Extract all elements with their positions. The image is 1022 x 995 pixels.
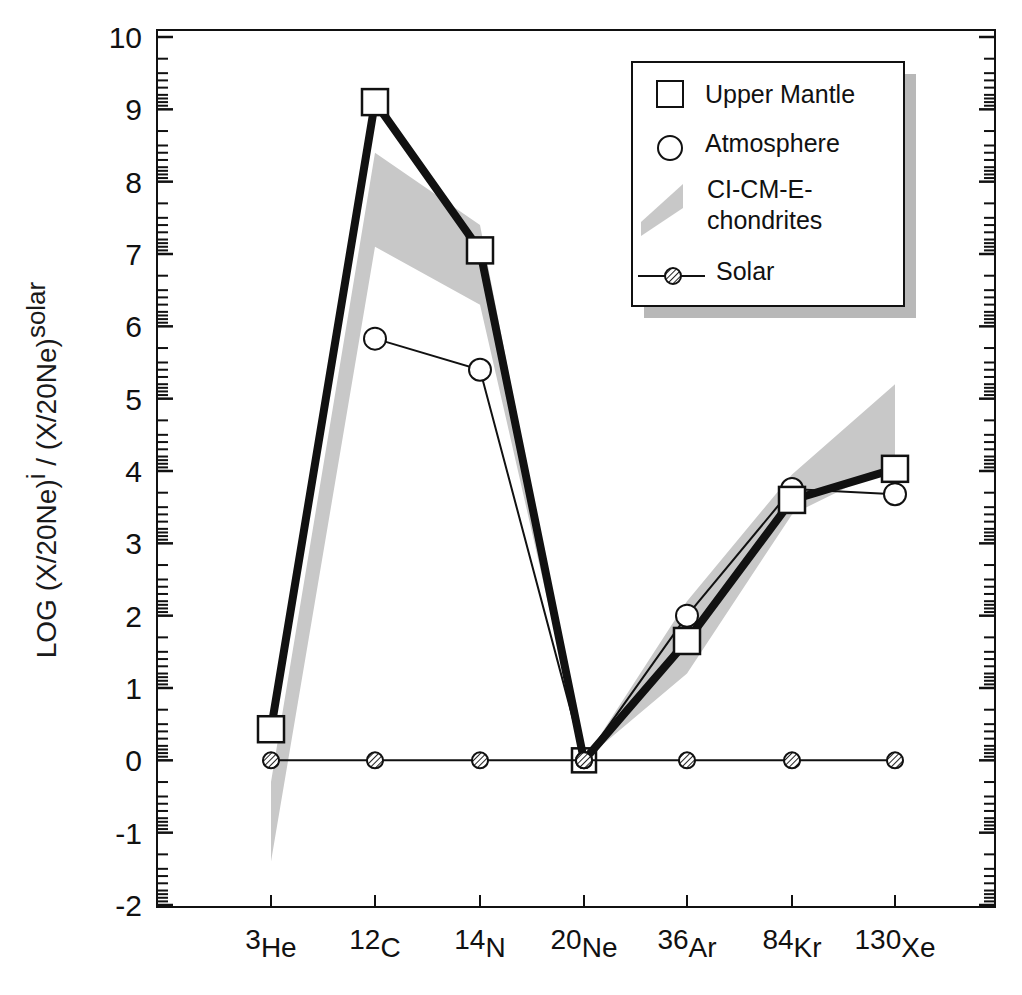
solar-marker [367, 752, 383, 768]
y-tick-label: 9 [125, 93, 142, 126]
x-tick-label: 84Kr [762, 924, 821, 963]
y-tick-labels: -2-1012345678910 [109, 21, 142, 922]
atmosphere-marker [884, 483, 906, 505]
y-tick-label: 4 [125, 455, 142, 488]
y-tick-label: 7 [125, 238, 142, 271]
y-axis-label-main: LOG (X/20Ne) [31, 479, 62, 658]
upper-mantle-marker [258, 716, 284, 742]
upper-mantle-marker [362, 89, 388, 115]
x-tick-label: 130Xe [855, 924, 936, 963]
legend-circle-icon [658, 136, 682, 160]
x-tick-label: 14N [454, 924, 505, 963]
legend-label-solar: Solar [716, 257, 774, 285]
y-tick-label: 3 [125, 527, 142, 560]
y-tick-label: 1 [125, 672, 142, 705]
x-tick-labels: 3He12C14N20Ne36Ar84Kr130Xe [245, 924, 935, 963]
legend-square-icon [657, 81, 683, 107]
y-tick-label: 10 [109, 21, 142, 54]
y-axis-label-mid: / (X/20Ne) [31, 338, 62, 473]
y-tick-label: 6 [125, 310, 142, 343]
solar-marker [263, 752, 279, 768]
legend: Upper MantleAtmosphereCI-CM-E-chondrites… [632, 62, 916, 318]
upper-mantle-marker [467, 237, 493, 263]
y-axis-label: LOG (X/20Ne)i / (X/20Ne)solar [21, 282, 62, 658]
upper-mantle-marker [674, 628, 700, 654]
solar-marker [887, 752, 903, 768]
x-tick-label: 3He [245, 924, 296, 963]
solar-marker [784, 752, 800, 768]
solar-marker [576, 752, 592, 768]
legend-label-atmosphere: Atmosphere [705, 129, 840, 157]
atmosphere-marker [364, 328, 386, 350]
x-tick-label: 12C [349, 924, 400, 963]
legend-label-chondrites-1: CI-CM-E- [707, 175, 813, 203]
y-tick-label: 2 [125, 600, 142, 633]
chart-canvas: -2-1012345678910 3He12C14N20Ne36Ar84Kr13… [0, 0, 1022, 995]
x-tick-label: 20Ne [551, 924, 618, 963]
legend-solar-marker-icon [665, 268, 681, 284]
legend-label-chondrites-2: chondrites [707, 206, 822, 234]
y-tick-label: -1 [115, 817, 142, 850]
upper-mantle-marker [779, 487, 805, 513]
y-tick-label: 0 [125, 744, 142, 777]
y-tick-label: -2 [115, 889, 142, 922]
atmosphere-marker [676, 605, 698, 627]
y-axis-label-sup2: solar [21, 282, 51, 338]
atmosphere-marker [469, 359, 491, 381]
solar-marker [679, 752, 695, 768]
y-tick-label: 5 [125, 383, 142, 416]
upper-mantle-marker [882, 456, 908, 482]
y-axis-label-sup1: i [21, 474, 51, 480]
solar-marker [472, 752, 488, 768]
y-tick-label: 8 [125, 166, 142, 199]
x-tick-label: 36Ar [657, 924, 716, 963]
legend-label-upper-mantle: Upper Mantle [705, 80, 855, 108]
